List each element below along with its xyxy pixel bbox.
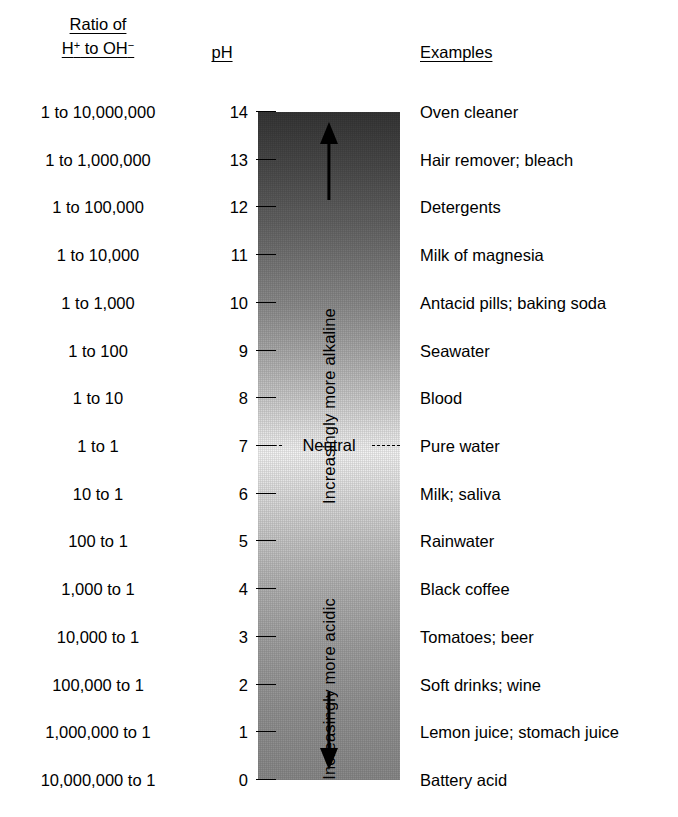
axis-tick	[256, 493, 276, 494]
neutral-dash-right	[372, 445, 400, 446]
ratio-header-line1: Ratio of	[0, 14, 196, 35]
ph-value: 0	[196, 769, 248, 791]
axis-tick	[256, 302, 276, 303]
axis-tick	[256, 588, 276, 589]
column-header-ph: pH	[196, 42, 248, 63]
examples-header-label: Examples	[420, 43, 492, 61]
ph-value: 6	[196, 483, 248, 505]
ph-value: 14	[196, 101, 248, 123]
ratio-value: 100,000 to 1	[0, 674, 196, 696]
arrow-down-shaft	[327, 692, 330, 750]
ph-value: 3	[196, 626, 248, 648]
ph-value: 10	[196, 292, 248, 314]
ph-value: 7	[196, 435, 248, 457]
example-value: Oven cleaner	[420, 101, 518, 123]
example-value: Milk of magnesia	[420, 244, 544, 266]
ratio-value: 1 to 1	[0, 435, 196, 457]
example-value: Detergents	[420, 196, 501, 218]
axis-label-alkaline-text: Increasingly more alkaline	[320, 308, 339, 504]
example-value: Hair remover; bleach	[420, 149, 573, 171]
ratio-value: 1 to 1,000	[0, 292, 196, 314]
example-value: Antacid pills; baking soda	[420, 292, 606, 314]
ratio-value: 10,000,000 to 1	[0, 769, 196, 791]
superscript-minus: −	[128, 39, 134, 51]
axis-tick	[256, 206, 276, 207]
example-value: Tomatoes; beer	[420, 626, 534, 648]
example-value: Milk; saliva	[420, 483, 501, 505]
axis-tick	[256, 684, 276, 685]
ph-value: 8	[196, 387, 248, 409]
ph-header-label: pH	[211, 43, 232, 61]
example-value: Black coffee	[420, 578, 510, 600]
ratio-value: 1 to 10,000	[0, 244, 196, 266]
ratio-value: 1,000,000 to 1	[0, 721, 196, 743]
ratio-header-line2: H+ to OH−	[0, 35, 196, 59]
axis-tick	[256, 636, 276, 637]
ph-scale-figure: Ratio of H+ to OH− pH Examples Increasin…	[0, 0, 678, 817]
axis-tick	[256, 779, 276, 780]
example-value: Soft drinks; wine	[420, 674, 541, 696]
ratio-value: 10 to 1	[0, 483, 196, 505]
axis-tick	[256, 111, 276, 112]
column-header-examples: Examples	[420, 42, 492, 63]
ph-value: 1	[196, 721, 248, 743]
ratio-value: 1,000 to 1	[0, 578, 196, 600]
axis-tick	[256, 397, 276, 398]
arrow-up-shaft	[327, 140, 330, 200]
example-value: Battery acid	[420, 769, 507, 791]
example-value: Pure water	[420, 435, 500, 457]
example-value: Seawater	[420, 340, 490, 362]
column-header-ratio: Ratio of H+ to OH−	[0, 14, 196, 59]
ph-value: 4	[196, 578, 248, 600]
ratio-value: 1 to 1,000,000	[0, 149, 196, 171]
axis-tick	[256, 159, 276, 160]
ph-value: 5	[196, 530, 248, 552]
ratio-value: 1 to 100	[0, 340, 196, 362]
ratio-value: 100 to 1	[0, 530, 196, 552]
axis-tick	[256, 540, 276, 541]
ratio-value: 1 to 100,000	[0, 196, 196, 218]
ph-value: 11	[196, 244, 248, 266]
example-value: Lemon juice; stomach juice	[420, 721, 619, 743]
ratio-value: 1 to 10,000,000	[0, 101, 196, 123]
example-value: Rainwater	[420, 530, 494, 552]
axis-tick	[256, 350, 276, 351]
ph-value: 2	[196, 674, 248, 696]
ratio-value: 10,000 to 1	[0, 626, 196, 648]
neutral-marker: Neutral	[258, 435, 400, 457]
ratio-value: 1 to 10	[0, 387, 196, 409]
example-value: Blood	[420, 387, 462, 409]
arrow-down-icon	[320, 748, 338, 770]
axis-tick	[256, 731, 276, 732]
ph-value: 9	[196, 340, 248, 362]
ph-value: 12	[196, 196, 248, 218]
ph-value: 13	[196, 149, 248, 171]
axis-tick	[256, 254, 276, 255]
